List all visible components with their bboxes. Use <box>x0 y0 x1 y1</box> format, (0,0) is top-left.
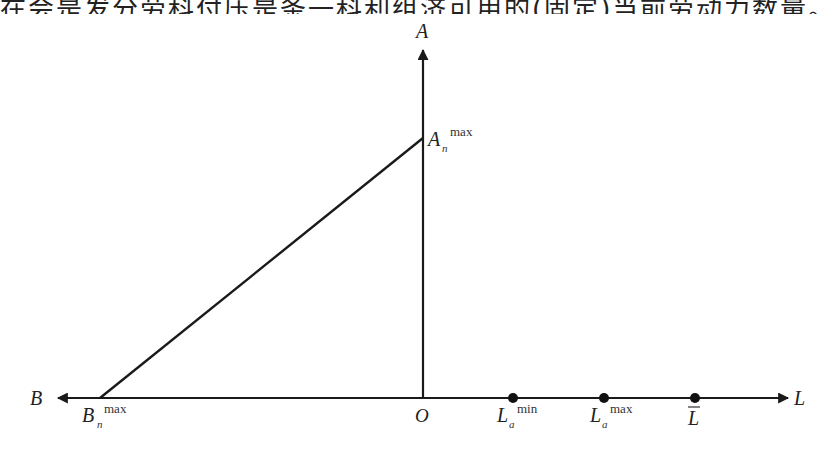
svg-text:L: L <box>589 404 601 426</box>
svg-text:L: L <box>687 407 699 429</box>
svg-text:B: B <box>82 404 94 426</box>
svg-text:a: a <box>509 418 515 430</box>
svg-text:a: a <box>602 418 608 430</box>
axis-label-b: B <box>30 387 42 409</box>
svg-text:min: min <box>517 401 538 416</box>
svg-text:L: L <box>496 404 508 426</box>
point-l-bar <box>690 393 700 403</box>
svg-text:max: max <box>610 401 633 416</box>
frontier-line <box>100 138 423 398</box>
svg-text:A: A <box>426 128 441 150</box>
label-b-n-max: B n max <box>82 401 127 430</box>
svg-text:n: n <box>442 142 448 154</box>
label-a-n-max: A n max <box>426 124 473 154</box>
point-la-max <box>599 393 609 403</box>
axis-label-l: L <box>793 387 805 409</box>
label-l-bar: L <box>687 407 700 429</box>
axis-label-a: A <box>414 20 429 42</box>
svg-text:n: n <box>97 418 103 430</box>
svg-text:max: max <box>450 124 473 139</box>
origin-label: O <box>415 405 429 426</box>
label-la-min: L a min <box>496 401 538 430</box>
svg-text:max: max <box>104 401 127 416</box>
budget-diagram: A B L O A n max B n max L a min L a max … <box>0 0 828 461</box>
label-la-max: L a max <box>589 401 633 430</box>
